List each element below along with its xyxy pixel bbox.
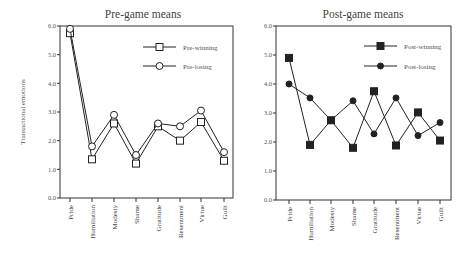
chart-title: Post-game means bbox=[323, 8, 404, 21]
x-category-label: Virtue bbox=[198, 205, 206, 222]
y-tick-label: 4.0 bbox=[48, 80, 56, 87]
square-marker bbox=[156, 44, 163, 51]
figure: Transactional emotions Pre-game means0.0… bbox=[0, 0, 472, 263]
y-tick-label: 6.0 bbox=[48, 22, 56, 29]
circle-marker bbox=[350, 98, 356, 104]
x-category-label: Guilt bbox=[437, 207, 445, 221]
circle-marker bbox=[378, 63, 384, 69]
circle-marker bbox=[198, 107, 205, 114]
square-marker bbox=[377, 43, 384, 50]
y-tick-label: 1.0 bbox=[264, 167, 272, 174]
square-marker bbox=[89, 156, 96, 163]
legend-item: Pre-losing bbox=[143, 63, 212, 71]
y-tick-label: 2.0 bbox=[48, 137, 56, 144]
x-category-label: Modesty bbox=[328, 207, 336, 232]
legend-label: Post-winning bbox=[404, 43, 442, 51]
y-axis-label: Transactional emotions bbox=[19, 79, 27, 145]
y-tick-label: 3.0 bbox=[48, 108, 56, 115]
x-category-label: Shame bbox=[350, 207, 358, 226]
legend-item: Pre-winning bbox=[143, 44, 218, 52]
square-marker bbox=[371, 88, 378, 95]
circle-marker bbox=[221, 149, 228, 156]
circle-marker bbox=[393, 95, 399, 101]
circle-marker bbox=[177, 123, 184, 130]
y-tick-label: 1.0 bbox=[48, 166, 56, 173]
circle-marker bbox=[328, 117, 334, 123]
circle-marker bbox=[89, 143, 96, 150]
chart-title: Pre-game means bbox=[105, 8, 182, 21]
y-tick-label: 3.0 bbox=[264, 109, 272, 116]
y-tick-label: 0.0 bbox=[48, 194, 56, 201]
x-category-label: Pride bbox=[286, 207, 294, 222]
square-marker bbox=[133, 160, 140, 167]
x-category-label: Guilt bbox=[221, 205, 229, 219]
x-category-label: Modesty bbox=[111, 205, 119, 230]
x-category-label: Gratitude bbox=[371, 207, 379, 233]
square-marker bbox=[177, 137, 184, 144]
y-tick-label: 5.0 bbox=[48, 51, 56, 58]
legend-item: Post-losing bbox=[364, 63, 436, 71]
y-tick-label: 0.0 bbox=[264, 196, 272, 203]
chart-post-game-means: Post-game means0.01.02.03.04.05.06.0Prid… bbox=[264, 8, 451, 241]
square-marker bbox=[286, 54, 293, 61]
circle-marker bbox=[415, 133, 421, 139]
circle-marker bbox=[133, 152, 140, 159]
circle-marker bbox=[156, 63, 163, 70]
chart-pre-game-means: Pre-game means0.01.02.03.04.05.06.0Pride… bbox=[48, 8, 233, 239]
legend-label: Pre-losing bbox=[183, 63, 212, 71]
square-marker bbox=[437, 137, 444, 144]
y-tick-label: 2.0 bbox=[264, 138, 272, 145]
square-marker bbox=[393, 142, 400, 149]
circle-marker bbox=[67, 25, 74, 32]
legend-label: Pre-winning bbox=[183, 44, 218, 52]
y-tick-label: 4.0 bbox=[264, 80, 272, 87]
legend-item: Post-winning bbox=[364, 43, 442, 51]
x-category-label: Shame bbox=[133, 205, 141, 224]
circle-marker bbox=[437, 120, 443, 126]
square-marker bbox=[221, 157, 228, 164]
x-category-label: Gratitude bbox=[155, 205, 163, 231]
circle-marker bbox=[371, 131, 377, 137]
x-category-label: Humiliation bbox=[89, 205, 97, 239]
square-marker bbox=[350, 144, 357, 151]
square-marker bbox=[111, 120, 118, 127]
circle-marker bbox=[286, 81, 292, 87]
circle-marker bbox=[307, 95, 313, 101]
legend-label: Post-losing bbox=[404, 63, 436, 71]
x-category-label: Humiliation bbox=[307, 207, 315, 241]
square-marker bbox=[307, 141, 314, 148]
y-tick-label: 5.0 bbox=[264, 51, 272, 58]
square-marker bbox=[415, 109, 422, 116]
x-category-label: Resentment bbox=[393, 207, 401, 240]
square-marker bbox=[198, 119, 205, 126]
x-category-label: Virtue bbox=[415, 207, 423, 224]
circle-marker bbox=[155, 120, 162, 127]
circle-marker bbox=[111, 111, 118, 118]
x-category-label: Pride bbox=[67, 205, 75, 220]
y-tick-label: 6.0 bbox=[264, 22, 272, 29]
x-category-label: Resentment bbox=[177, 205, 185, 238]
